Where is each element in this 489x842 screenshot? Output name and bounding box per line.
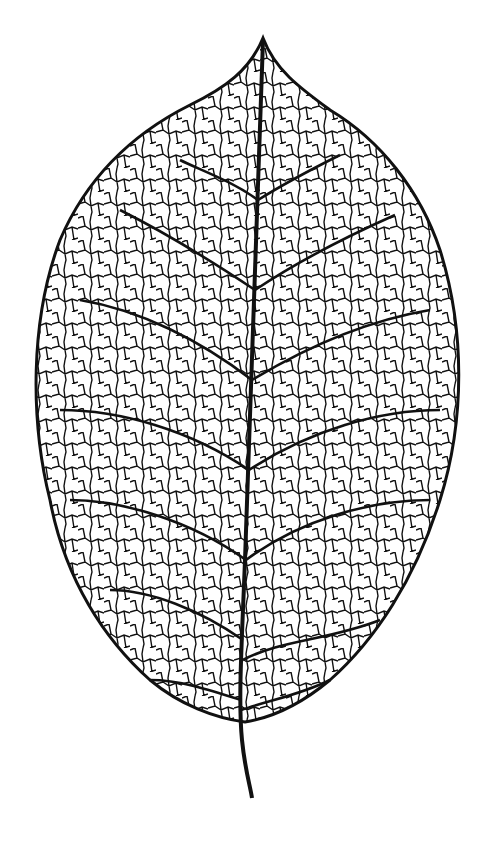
leaf-vein-network [0,0,489,842]
leaf-skeleton-illustration [0,0,489,842]
